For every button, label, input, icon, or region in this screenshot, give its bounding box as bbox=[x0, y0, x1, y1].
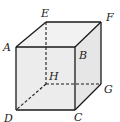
label-H: H bbox=[48, 70, 59, 83]
label-B: B bbox=[78, 49, 87, 62]
label-E: E bbox=[40, 7, 49, 20]
label-A: A bbox=[2, 41, 11, 54]
label-F: F bbox=[105, 11, 114, 24]
label-D: D bbox=[3, 112, 13, 122]
label-G: G bbox=[104, 83, 113, 96]
label-C: C bbox=[74, 111, 83, 122]
cube-diagram: A B C D E F G H bbox=[0, 0, 120, 122]
